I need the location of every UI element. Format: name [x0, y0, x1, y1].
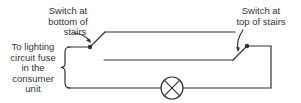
switch-bottom-pivot [88, 45, 92, 49]
switch-top-pivot [245, 44, 249, 48]
switched-live-wire [183, 46, 271, 88]
switch-top-lever [233, 46, 247, 60]
arrowhead-top [236, 47, 240, 52]
label-line: To lighting [4, 42, 62, 53]
label-switch-top: Switch at top of stairs [226, 6, 296, 27]
arrowhead-bottom [86, 39, 91, 44]
label-supply-fuse: To lighting circuit fuse in the consumer… [4, 42, 62, 95]
label-line: top of stairs [226, 17, 296, 28]
label-line: Switch at [226, 6, 296, 17]
label-line: Switch at [38, 6, 98, 17]
supply-brace [61, 47, 70, 88]
label-switch-bottom: Switch at bottom of stairs [38, 6, 98, 38]
label-line: unit [4, 84, 62, 95]
leader-arrow-top-switch [238, 30, 243, 50]
label-line: in the [4, 63, 62, 74]
lamp-icon [161, 77, 183, 99]
two-way-switch-diagram: Switch at bottom of stairs Switch at top… [0, 0, 301, 103]
label-line: stairs [38, 27, 98, 38]
